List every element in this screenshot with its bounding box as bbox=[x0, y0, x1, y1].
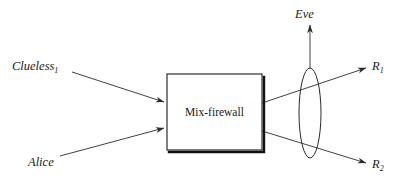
label-clueless-subscript: 1 bbox=[54, 66, 58, 75]
label-r1-text: R bbox=[371, 59, 380, 73]
mix-firewall-label: Mix-firewall bbox=[185, 106, 244, 118]
edge-clueless-to-mix bbox=[72, 72, 164, 102]
wiretap-ellipse[interactable] bbox=[299, 68, 321, 158]
label-r1: R1 bbox=[371, 59, 384, 75]
edge-alice-to-mix bbox=[60, 128, 164, 156]
label-clueless: Clueless1 bbox=[12, 59, 58, 75]
label-alice-text: Alice bbox=[27, 155, 54, 169]
edge-mix-to-r1 bbox=[262, 68, 366, 103]
label-r2: R2 bbox=[371, 157, 384, 173]
label-r1-subscript: 1 bbox=[380, 66, 384, 75]
label-eve: Eve bbox=[294, 7, 314, 21]
label-r2-subscript: 2 bbox=[380, 164, 384, 173]
edge-mix-to-r2 bbox=[262, 131, 366, 163]
diagram-canvas: Mix-firewall Clueless1 Alice Eve R1 R2 bbox=[0, 0, 399, 183]
label-alice: Alice bbox=[27, 155, 54, 169]
label-r2-text: R bbox=[371, 157, 380, 171]
label-clueless-text: Clueless bbox=[12, 59, 54, 73]
diagram-svg: Mix-firewall Clueless1 Alice Eve R1 R2 bbox=[0, 0, 399, 183]
label-eve-text: Eve bbox=[294, 7, 314, 21]
